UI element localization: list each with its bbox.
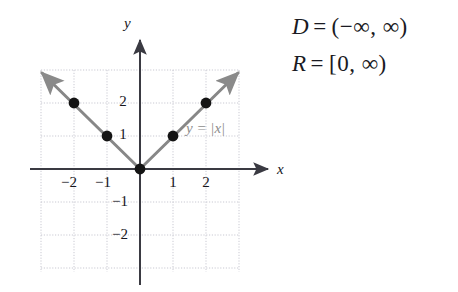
x-tick-label-1: 1 [166,174,180,191]
range-symbol: R [292,51,308,76]
domain-symbol: D [292,14,310,39]
curve-left-branch [42,73,140,169]
figure-page: x y −2 −1 1 2 2 1 −1 −2 y = |x| D=(−∞, ∞… [0,0,458,292]
domain-value: (−∞, ∞) [332,14,408,39]
x-tick-label-neg2: −2 [59,174,79,191]
point-marker [168,131,179,142]
range-equals: = [308,51,329,76]
range-value: [0, ∞) [329,51,387,76]
domain-equals: = [310,14,331,39]
x-tick-label-2: 2 [199,174,213,191]
y-tick-label-neg1: −1 [110,193,130,210]
point-marker [69,98,80,109]
point-marker [135,164,146,175]
domain-range-annotations: D=(−∞, ∞) R=[0, ∞) [292,8,458,83]
range-line: R=[0, ∞) [292,45,458,82]
domain-line: D=(−∞, ∞) [292,8,458,45]
y-axis-label: y [124,15,131,32]
y-tick-label-2: 2 [116,93,130,110]
x-axis-label: x [277,161,284,178]
point-marker [102,131,113,142]
x-tick-label-neg1: −1 [93,174,113,191]
y-tick-label-neg2: −2 [110,226,130,243]
curve-equation-label: y = |x| [186,120,225,137]
y-tick-label-1: 1 [116,126,130,143]
point-marker [201,98,212,109]
